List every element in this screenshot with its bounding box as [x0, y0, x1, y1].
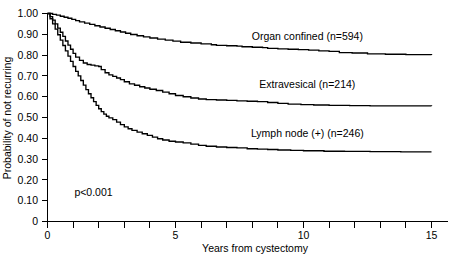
y-tick-label: 0.20 — [18, 174, 39, 186]
x-tick-label: 15 — [426, 229, 438, 241]
y-tick-label: 0.90 — [18, 28, 39, 40]
y-axis-title: Probability of not recurring — [1, 57, 13, 180]
y-tick-label: 0.70 — [18, 70, 39, 82]
y-tick-label: 0 — [32, 215, 38, 227]
y-axis-ticks — [42, 14, 48, 222]
survival-curve-line — [48, 14, 432, 56]
survival-curves — [48, 14, 432, 152]
chart-legend: Organ confined (n=594)Extravesical (n=21… — [251, 30, 364, 140]
legend-label-text: Lymph node (+) (n=246) — [251, 127, 364, 139]
x-tick-label: 0 — [45, 229, 51, 241]
y-tick-label: 1.00 — [18, 7, 39, 19]
legend-label-text: Organ confined (n=594) — [252, 30, 363, 42]
y-tick-label: 0.30 — [18, 153, 39, 165]
y-tick-label: 0.50 — [18, 111, 39, 123]
y-axis-tick-labels: 00.100.200.300.400.500.600.700.800.901.0… — [18, 7, 39, 227]
annotation-pvalue: p<0.001 — [74, 186, 112, 198]
kaplan-meier-figure: Probability of not recurring 00.100.200.… — [0, 0, 454, 260]
y-tick-label: 0.80 — [18, 49, 39, 61]
x-tick-label: 10 — [298, 229, 310, 241]
y-tick-label: 0.10 — [18, 194, 39, 206]
x-axis-tick-labels: 051015 — [45, 229, 438, 241]
x-axis-ticks — [48, 222, 432, 228]
y-tick-label: 0.40 — [18, 132, 39, 144]
y-axis-title-text: Probability of not recurring — [1, 57, 13, 180]
survival-curve-chart: Probability of not recurring 00.100.200.… — [0, 0, 454, 260]
legend-label-text: Extravesical (n=214) — [259, 78, 355, 90]
x-axis-title-text: Years from cystectomy — [202, 242, 309, 254]
survival-curve-line — [48, 14, 432, 152]
chart-annotations: p<0.001 — [74, 186, 112, 198]
y-tick-label: 0.60 — [18, 90, 39, 102]
x-tick-label: 5 — [173, 229, 179, 241]
